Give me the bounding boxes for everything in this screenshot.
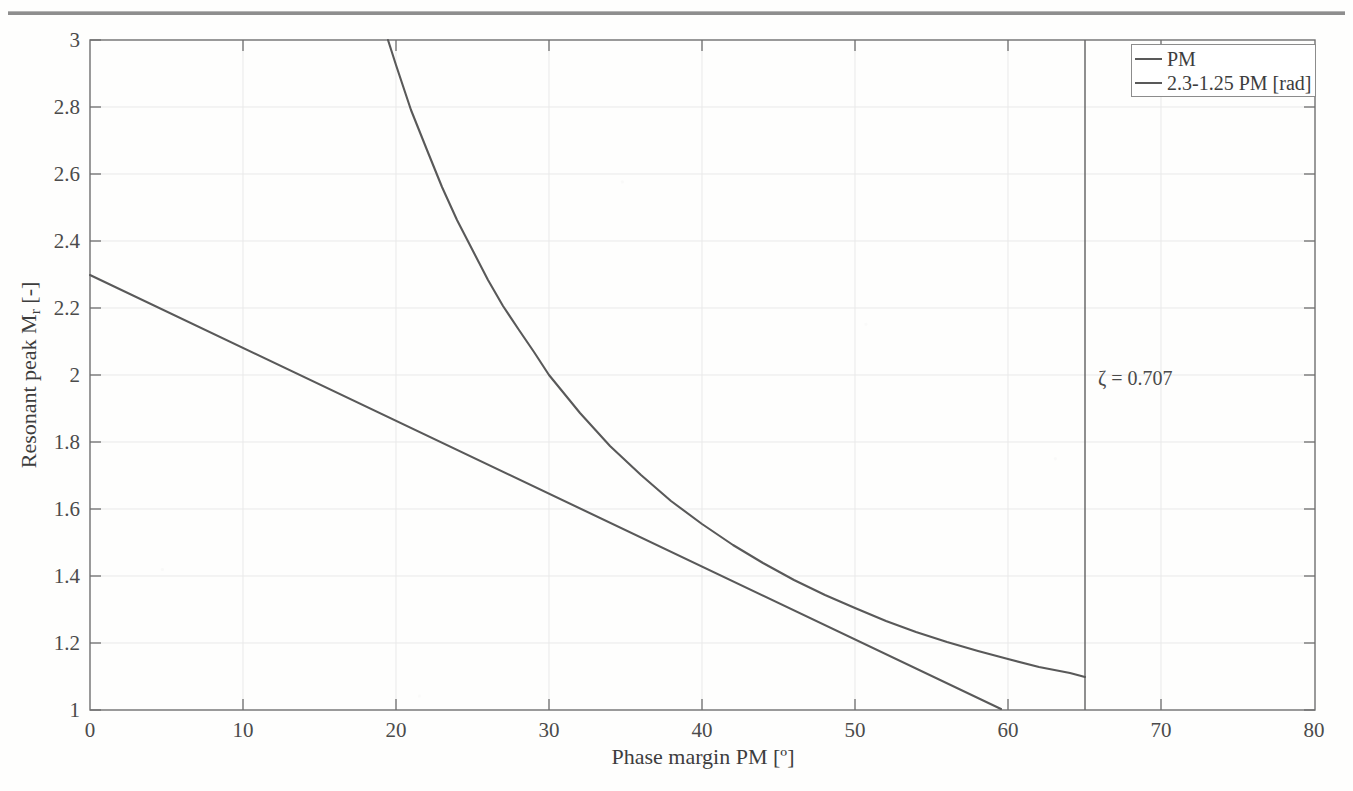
- legend-line-swatch-icon: [1135, 82, 1162, 84]
- zeta-annotation-label: ζ = 0.707: [1098, 367, 1173, 390]
- series-linear-approx: [90, 275, 1001, 709]
- y-tick-label: 1.2: [20, 631, 80, 656]
- x-tick-label: 20: [386, 718, 407, 743]
- plot-svg: [0, 0, 1353, 791]
- y-axis-label-subscript: r: [26, 309, 43, 314]
- figure-resonant-peak-vs-phase-margin: 3 2.8 2.6 2.4 2.2 2 1.8 1.6 1.4 1.2 1 0 …: [0, 0, 1353, 791]
- page-canvas: 3 2.8 2.6 2.4 2.2 2 1.8 1.6 1.4 1.2 1 0 …: [0, 0, 1353, 791]
- y-axis-label-suffix: [-]: [16, 282, 41, 309]
- y-tick-label: 1.4: [20, 564, 80, 589]
- x-tick-label: 30: [539, 718, 560, 743]
- y-axis-label: Resonant peak Mr [-]: [16, 282, 44, 469]
- legend-item-linear-approx[interactable]: 2.3-1.25 PM [rad]: [1132, 71, 1315, 95]
- legend-box[interactable]: PM 2.3-1.25 PM [rad]: [1131, 44, 1316, 97]
- x-tick-label: 60: [998, 718, 1019, 743]
- x-tick-label: 80: [1304, 718, 1325, 743]
- y-tick-label: 2.8: [20, 95, 80, 120]
- x-tick-label: 50: [845, 718, 866, 743]
- legend-item-pm[interactable]: PM: [1132, 47, 1315, 71]
- series-pm-curve: [388, 40, 1085, 677]
- y-tick-label: 2.4: [20, 229, 80, 254]
- y-tick-label: 3: [20, 28, 80, 53]
- y-tick-label: 1.6: [20, 497, 80, 522]
- x-tick-label: 40: [692, 718, 713, 743]
- y-tick-label: 1: [20, 698, 80, 723]
- x-tick-label: 0: [85, 718, 96, 743]
- legend-label: PM: [1167, 49, 1196, 69]
- legend-label: 2.3-1.25 PM [rad]: [1167, 73, 1311, 93]
- x-tick-label: 10: [233, 718, 254, 743]
- y-axis-label-prefix: Resonant peak M: [16, 314, 41, 468]
- legend-line-swatch-icon: [1135, 58, 1162, 60]
- x-tick-label: 70: [1151, 718, 1172, 743]
- x-axis-label: Phase margin PM [º]: [611, 744, 794, 770]
- y-tick-label: 2.6: [20, 162, 80, 187]
